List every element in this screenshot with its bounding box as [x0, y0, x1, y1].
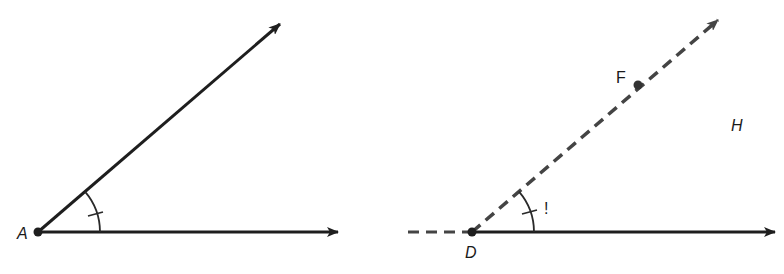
angle-diagram: A ! D F H	[0, 0, 784, 274]
angle-a-tick-mark	[88, 212, 103, 216]
label-h: H	[731, 117, 743, 134]
label-d: D	[465, 244, 477, 261]
ray-a-oblique	[38, 24, 280, 232]
ray-d-oblique-dashed	[472, 20, 718, 232]
angle-d-figure: ! D F H	[408, 20, 775, 261]
label-a: A	[16, 225, 28, 242]
angle-a-figure: A	[16, 24, 338, 242]
label-f: F	[616, 69, 626, 86]
angle-d-mark: !	[544, 200, 548, 217]
point-f-dot	[634, 81, 643, 90]
angle-a-arc	[85, 192, 100, 232]
point-a-dot	[34, 228, 43, 237]
point-d-dot	[468, 228, 477, 237]
